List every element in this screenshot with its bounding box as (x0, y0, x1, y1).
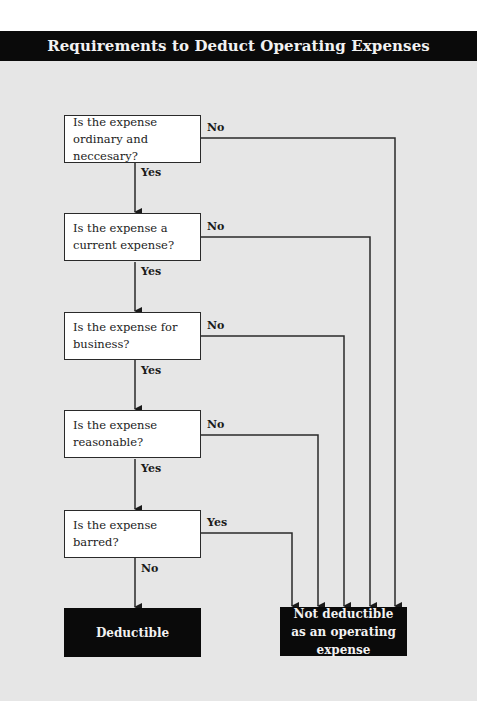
question-box-2: Is the expense a current expense? (64, 213, 201, 261)
outcome-not-deductible: Not deductible as an operating expense (280, 607, 407, 656)
question-box-1: Is the expense ordinary and neccesary? (64, 115, 201, 163)
outcome-text: Not deductible as an operating expense (286, 605, 401, 659)
branch-label-fail-3: No (207, 319, 224, 332)
question-text: Is the expense a current expense? (73, 220, 192, 254)
branch-label-pass-2: Yes (141, 265, 161, 278)
branch-label-pass-1: Yes (141, 166, 161, 179)
question-text: Is the expense ordinary and neccesary? (73, 114, 192, 165)
no-branch-1 (201, 138, 395, 606)
question-box-4: Is the expense reasonable? (64, 410, 201, 458)
branch-label-fail-1: No (207, 121, 224, 134)
branch-label-fail-5: Yes (207, 516, 227, 529)
question-text: Is the expense for business? (73, 319, 192, 353)
question-text: Is the expense barred? (73, 517, 192, 551)
outcome-deductible: Deductible (64, 608, 201, 657)
question-box-3: Is the expense for business? (64, 312, 201, 360)
no-branch-3 (201, 336, 344, 606)
outcome-text: Deductible (96, 624, 169, 642)
branch-label-fail-2: No (207, 220, 224, 233)
branch-label-pass-4: Yes (141, 462, 161, 475)
branch-label-pass-3: Yes (141, 364, 161, 377)
question-text: Is the expense reasonable? (73, 417, 192, 451)
branch-label-fail-4: No (207, 418, 224, 431)
question-box-5: Is the expense barred? (64, 510, 201, 558)
branch-label-pass-5: No (141, 562, 158, 575)
yes-branch-5 (201, 533, 292, 606)
